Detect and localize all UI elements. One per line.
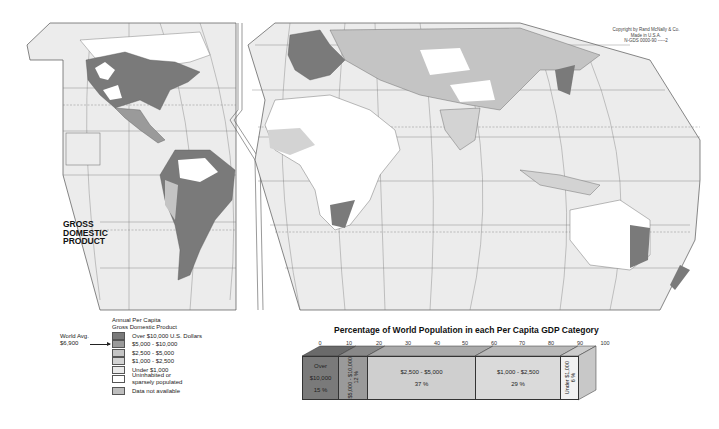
bar-segment-under-1000: Under $1,000 6 % [560,356,579,400]
bar-segment-1000-2500: $1,000 - $2,500 29 % [475,356,561,400]
bar-segment-2500-5000: $2,500 - $5,000 37 % [367,356,476,400]
segment-value: 6 % [570,373,576,382]
segment-value: 15 % [314,384,328,396]
segment-label-vertical: $5,000 - $10,000 12 % [347,357,359,399]
segment-label: Under $1,000 [564,361,570,394]
segment-label: $1,000 - $2,500 [497,366,539,378]
bar-segment-over-10000: Over $10,000 15 % [302,356,339,400]
segment-label: Over $10,000 [303,360,338,384]
segment-value: 29 % [511,378,525,390]
segment-label-vertical: Under $1,000 6 % [564,361,576,394]
segment-label: $2,500 - $5,000 [400,366,442,378]
segment-value: 12 % [353,372,359,385]
segment-value: 37 % [415,378,429,390]
bar-segment-5000-10000: $5,000 - $10,000 12 % [338,356,368,400]
